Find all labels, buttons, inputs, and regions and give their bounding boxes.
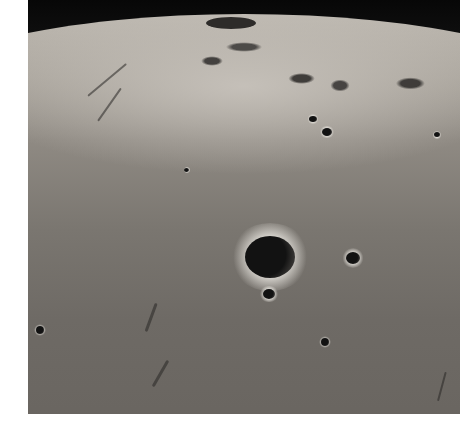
crater-floor <box>322 128 332 136</box>
crater-floor <box>309 116 317 122</box>
crater-floor <box>36 326 44 334</box>
crater-floor <box>434 132 440 137</box>
small-crater-6 <box>36 326 44 334</box>
small-crater-2 <box>346 252 360 264</box>
crater-floor <box>263 289 275 299</box>
small-crater-7 <box>434 132 440 137</box>
dark-highland-patch <box>206 17 256 29</box>
small-crater-3 <box>322 128 332 136</box>
small-crater-5 <box>321 338 329 346</box>
crater-floor <box>184 168 189 172</box>
rugged-highlands <box>148 40 460 110</box>
crater-floor <box>346 252 360 264</box>
main-crater <box>245 236 295 278</box>
small-crater-8 <box>184 168 189 172</box>
lunar-photo <box>28 0 460 414</box>
small-crater-4 <box>309 116 317 122</box>
crater-floor <box>321 338 329 346</box>
small-crater-1 <box>263 289 275 299</box>
crater-floor <box>245 236 295 278</box>
